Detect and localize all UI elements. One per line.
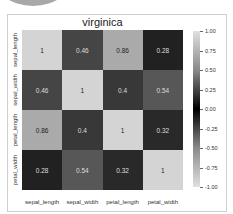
- colorbar-tick: -1.00: [200, 184, 218, 190]
- heatmap-cell: 0.4: [103, 70, 143, 110]
- heatmap-cell: 0.54: [62, 150, 102, 190]
- x-label: sepal_length: [22, 199, 62, 205]
- heatmap-cell: 0.46: [62, 30, 102, 70]
- heatmap-cell: 1: [22, 30, 62, 70]
- x-axis-labels: sepal_length sepal_width petal_length pe…: [22, 199, 183, 205]
- heatmap-cell: 0.4: [62, 110, 102, 150]
- colorbar: [193, 31, 200, 187]
- colorbar-tick: 0.00: [200, 106, 216, 112]
- heatmap-cell: 0.32: [143, 110, 183, 150]
- colorbar-ticks: 1.000.750.500.250.00-0.25-0.50-0.75-1.00: [200, 31, 230, 187]
- heatmap-cell: 1: [62, 70, 102, 110]
- heatmap-cell: 1: [103, 110, 143, 150]
- x-label: petal_width: [143, 199, 183, 205]
- colorbar-tick: -0.75: [200, 165, 218, 171]
- heatmap-cell: 0.86: [22, 110, 62, 150]
- heatmap-cell: 0.54: [143, 70, 183, 110]
- heatmap-cell: 0.86: [103, 30, 143, 70]
- y-label: petal_width: [9, 150, 21, 190]
- heatmap-cell: 0.28: [22, 150, 62, 190]
- y-label: sepal_width: [9, 70, 21, 110]
- decorative-circle: [0, 0, 74, 6]
- colorbar-tick: 0.50: [200, 67, 216, 73]
- colorbar-tick: 0.25: [200, 87, 216, 93]
- colorbar-tick: -0.50: [200, 145, 218, 151]
- heatmap-cell: 0.28: [143, 30, 183, 70]
- colorbar-tick: 1.00: [200, 28, 216, 34]
- chart-title: virginica: [22, 16, 183, 28]
- colorbar-tick: -0.25: [200, 126, 218, 132]
- y-axis-labels: sepal_length sepal_width petal_length pe…: [9, 30, 21, 190]
- x-label: petal_length: [103, 199, 143, 205]
- x-label: sepal_width: [62, 199, 102, 205]
- y-label: sepal_length: [9, 30, 21, 70]
- heatmap-cell: 1: [143, 150, 183, 190]
- colorbar-tick: 0.75: [200, 48, 216, 54]
- heatmap-cell: 0.46: [22, 70, 62, 110]
- y-label: petal_length: [9, 110, 21, 150]
- heatmap-grid: 10.460.860.280.4610.40.540.860.410.320.2…: [22, 30, 183, 190]
- heatmap-cell: 0.32: [103, 150, 143, 190]
